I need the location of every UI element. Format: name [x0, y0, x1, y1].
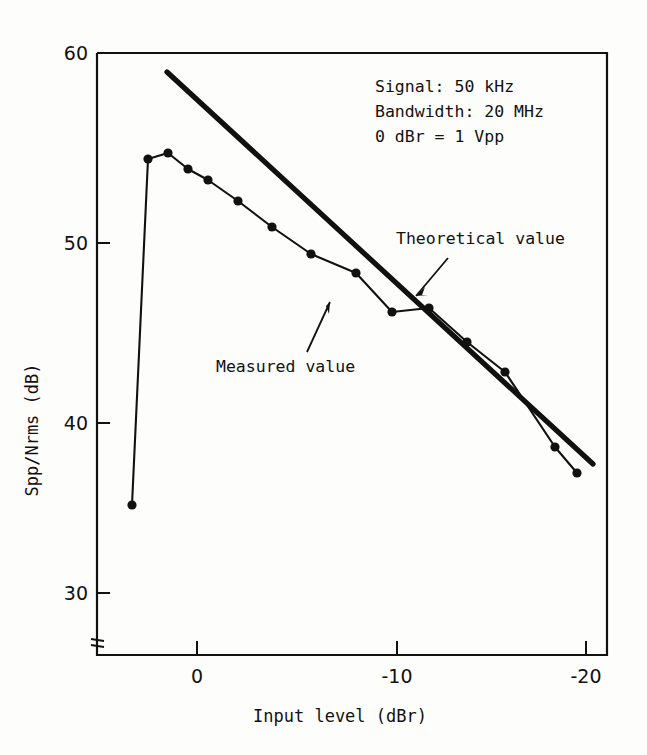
chart-root: 60 50 40 30 0 -10 -20 Input level (dBr) … — [0, 0, 647, 755]
plot-frame — [97, 53, 607, 655]
series-measured-value — [127, 148, 581, 509]
annotation-measured-value: Measured value — [216, 302, 355, 376]
chart-notes: Signal: 50 kHz Bandwidth: 20 MHz 0 dBr =… — [375, 77, 544, 146]
y-tick-label-60: 60 — [64, 42, 88, 64]
note-signal: Signal: 50 kHz — [375, 77, 514, 96]
y-axis-ticks — [97, 53, 110, 593]
y-tick-label-50: 50 — [64, 232, 88, 254]
theoretical-label: Theoretical value — [396, 229, 565, 248]
y-tick-label-40: 40 — [64, 412, 88, 434]
x-axis-ticks — [197, 641, 586, 655]
measured-label: Measured value — [216, 357, 355, 376]
x-tick-label-m10: -10 — [381, 665, 412, 687]
y-tick-label-30: 30 — [64, 582, 88, 604]
note-dbr: 0 dBr = 1 Vpp — [375, 127, 504, 146]
annotation-theoretical-value: Theoretical value — [396, 229, 565, 296]
x-tick-label-0: 0 — [191, 665, 203, 687]
series-measured-markers — [127, 148, 581, 509]
y-axis-title: Spp/Nrms (dB) — [22, 363, 42, 496]
x-axis-title: Input level (dBr) — [253, 706, 427, 726]
x-tick-label-m20: -20 — [570, 665, 601, 687]
note-bandwidth: Bandwidth: 20 MHz — [375, 102, 544, 121]
chart-svg: 60 50 40 30 0 -10 -20 Input level (dBr) … — [0, 0, 647, 755]
